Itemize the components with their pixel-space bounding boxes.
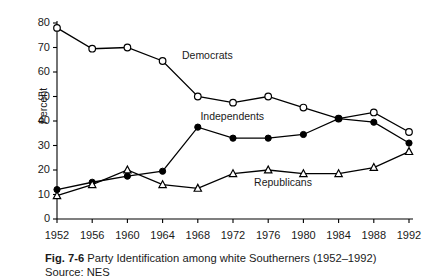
data-point-marker	[265, 93, 272, 100]
figure-caption: Fig. 7-6 Party Identification among whit…	[45, 252, 441, 279]
y-axis-tick-label: 60	[24, 66, 50, 77]
data-point-marker	[124, 173, 130, 179]
data-point-marker	[230, 99, 237, 106]
figure-number: Fig. 7-6	[45, 252, 84, 264]
y-axis-tick-label: 0	[24, 213, 50, 224]
series-line	[57, 119, 409, 190]
data-point-marker	[54, 25, 61, 32]
data-point-marker	[265, 135, 271, 141]
y-axis-tick-label: 20	[24, 164, 50, 175]
data-point-marker	[230, 135, 236, 141]
data-point-marker	[371, 119, 377, 125]
figure-title: Party Identification among white Souther…	[87, 252, 376, 264]
figure-source: Source: NES	[45, 266, 441, 280]
x-axis-tick-label: 1992	[386, 230, 432, 241]
y-axis-tick-label: 10	[24, 189, 50, 200]
y-axis-tick-label: 30	[24, 140, 50, 151]
data-point-marker	[300, 131, 306, 137]
data-point-marker	[159, 58, 166, 65]
data-point-marker	[160, 168, 166, 174]
data-point-marker	[89, 45, 96, 52]
y-axis-tick-label: 80	[24, 17, 50, 28]
data-point-marker	[195, 124, 201, 130]
series-republicans	[53, 148, 412, 199]
data-point-marker	[406, 129, 413, 136]
data-point-marker	[124, 44, 131, 51]
y-axis-tick-label: 40	[24, 115, 50, 126]
y-axis-tick-label: 70	[24, 42, 50, 53]
figure-container: Percent 01020304050607080 19521956196019…	[0, 0, 446, 280]
y-axis-tick-label: 50	[24, 91, 50, 102]
data-point-marker	[371, 109, 378, 116]
data-point-marker	[265, 166, 272, 173]
y-axis-title: Percent	[37, 71, 49, 141]
data-point-marker	[406, 140, 412, 146]
data-point-marker	[124, 166, 131, 173]
data-point-marker	[336, 115, 342, 121]
series-label-independents: Independents	[200, 111, 264, 122]
series-label-democrats: Democrats	[182, 50, 233, 61]
series-label-republicans: Republicans	[254, 177, 312, 188]
data-point-marker	[300, 104, 307, 111]
data-point-marker	[405, 148, 412, 155]
series-independents	[54, 115, 412, 192]
data-point-marker	[195, 93, 202, 100]
